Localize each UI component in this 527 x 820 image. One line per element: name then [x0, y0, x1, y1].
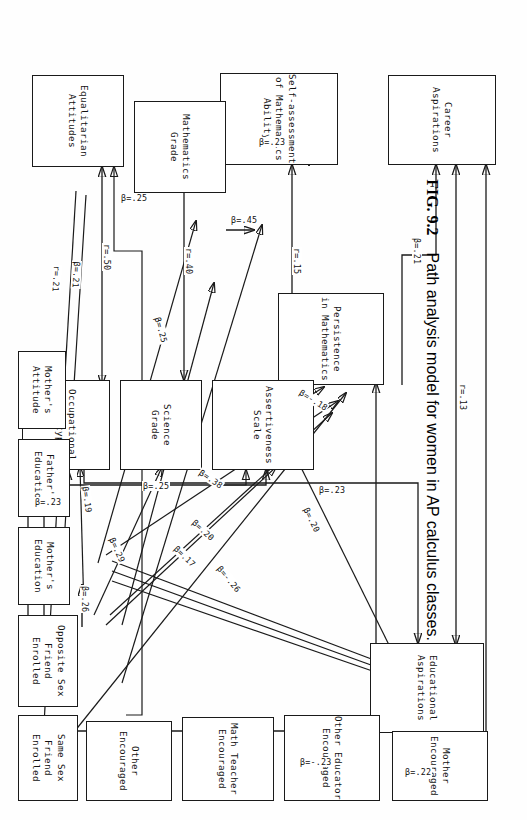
- edge-label-b25b: β=.25: [120, 193, 148, 203]
- edge-label-b25c: β=.25: [142, 481, 170, 491]
- node-mothers-education[interactable]: Mother's Education: [18, 527, 70, 605]
- node-math-teacher-encouraged[interactable]: Math Teacher Encouraged: [182, 717, 274, 801]
- edge-samesex-edasp-3: [112, 581, 384, 675]
- node-mother-encouraged[interactable]: Mother Encouraged: [392, 731, 488, 801]
- edge-label-r40: r=.40: [184, 247, 194, 275]
- edge-label-b22: β=.22: [404, 767, 432, 777]
- node-mothers-attitude[interactable]: Mother's Attitude: [18, 351, 66, 429]
- edge-label-b26: β=.26: [80, 585, 90, 613]
- edge-b17: [106, 467, 276, 625]
- path-diagram-stage: Career Aspirations Educational Aspiratio…: [14, 15, 514, 805]
- node-mathematics-grade[interactable]: Mathematics Grade: [134, 101, 226, 193]
- edge-label-b23a: β=.23: [258, 137, 286, 147]
- node-other-encouraged[interactable]: Other Encouraged: [86, 721, 172, 801]
- node-equalitarian-attitudes[interactable]: Equalitarian Attitudes: [32, 75, 124, 167]
- edge-label-b21b: β=.21: [70, 260, 81, 289]
- edge-label-r13: r=.13: [458, 383, 468, 411]
- node-educational-aspirations[interactable]: Educational Aspirations: [370, 643, 484, 733]
- edge-label-bneg23: β=-.23: [299, 757, 332, 767]
- node-self-assessment-math-ability[interactable]: Self-assessment of Mathematics Ability: [220, 73, 338, 165]
- edge-b23b: [84, 470, 418, 643]
- figure-page: Career Aspirations Educational Aspiratio…: [0, 0, 527, 820]
- edge-b21: [402, 165, 436, 385]
- edge-label-b45: β=.45: [230, 215, 258, 225]
- edge-label-b23b: β=.23: [318, 485, 346, 495]
- edge-label-b21: β=.21: [412, 237, 422, 265]
- node-opposite-sex-friend-enrolled[interactable]: Opposite Sex Friend Enrolled: [18, 615, 78, 707]
- edge-samesex-edasp-1: [112, 561, 382, 663]
- edge-label-r21: r=.21: [50, 264, 61, 293]
- edge-label-r50: r=.50: [102, 243, 112, 271]
- edge-label-b23c: β=.23: [34, 497, 62, 507]
- edge-label-r15: r=.15: [292, 247, 302, 275]
- node-same-sex-friend-enrolled[interactable]: Same Sex Friend Enrolled: [18, 715, 78, 801]
- node-career-aspirations[interactable]: Career Aspirations: [388, 75, 496, 165]
- node-persistence-in-mathematics[interactable]: Persistence in Mathematics: [278, 293, 384, 385]
- node-science-grade[interactable]: Science Grade: [120, 380, 202, 470]
